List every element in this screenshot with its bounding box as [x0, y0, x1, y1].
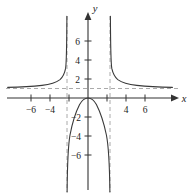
- x-axis-arrow: [171, 95, 179, 102]
- curve-right-branch: [110, 16, 172, 87]
- y-tick-label-6: 6: [75, 37, 80, 47]
- curve-left-branch: [8, 16, 67, 87]
- x-axis-label: x: [181, 93, 187, 104]
- graph-figure: −6 −4 4 6 6 4 2 −2 −4 −6 y x: [0, 0, 190, 195]
- x-tick-label-4: 4: [124, 105, 129, 115]
- y-tick-label-neg6: −6: [71, 151, 81, 161]
- x-tick-label-neg4: −4: [45, 105, 55, 115]
- coordinate-plane: −6 −4 4 6 6 4 2 −2 −4 −6 y x: [0, 0, 190, 195]
- y-tick-label-4: 4: [75, 56, 80, 66]
- y-tick-label-neg4: −4: [71, 132, 81, 142]
- y-axis-arrow: [85, 12, 92, 20]
- x-tick-label-neg6: −6: [26, 105, 36, 115]
- y-axis-label: y: [92, 3, 98, 14]
- y-tick-label-2: 2: [75, 75, 80, 85]
- x-tick-label-6: 6: [143, 105, 148, 115]
